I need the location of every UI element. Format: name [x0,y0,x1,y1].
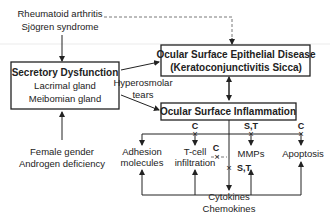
block-mark-apoptosis: × [298,128,304,139]
secretory-title: Secretory Dysfunction [12,67,119,78]
label-cytokines: Cytokines [208,191,250,202]
risk-factor-sjogren-syndrome: Sjögren syndrome [21,21,98,32]
risk-factor-rheumatoid-arthritis: Rheumatoid arthritis [17,8,102,19]
outcome-apoptosis: Apoptosis [282,148,324,159]
dashed-link-ra-to-epithelial [104,17,232,42]
inflammation-title: Ocular Surface Inflammation [160,106,296,117]
arrow-secretory-to-epithelial [121,62,159,70]
block-mark-mmps: × [248,128,254,139]
tears-label: tears [132,89,153,100]
block-mark-tcell: × [192,128,198,139]
outcome-tcell: T-cell [184,146,207,157]
risk-factor-female-gender: Female gender [30,146,94,157]
outcome-molecules: molecules [121,157,164,168]
hyperosmolar-label: Hyperosmolar [113,77,172,88]
label-chemokines: Chemokines [203,203,256,214]
dry-eye-pathogenesis-diagram: Rheumatoid arthritis Sjögren syndrome Se… [0,0,330,216]
block-mark-tcell-center: × [214,151,220,162]
secretory-line-lacrimal: Lacrimal gland [34,80,96,91]
outcome-infiltration: infiltration [175,157,216,168]
risk-factor-androgen-deficiency: Androgen deficiency [19,158,105,169]
epithelial-title: Ocular Surface Epithelial Disease [157,49,316,60]
block-mark-cytokines: × [226,162,232,173]
outcome-adhesion: Adhesion [122,146,162,157]
outcome-mmps: MMPs [238,148,265,159]
feedback-arrow-adhesion [142,170,195,195]
epithelial-subtitle: (Keratoconjunctivitis Sicca) [170,62,302,73]
secretory-line-meibomian: Meibomian gland [29,93,101,104]
inhibitor-label-cytokines: S,T [237,163,252,173]
